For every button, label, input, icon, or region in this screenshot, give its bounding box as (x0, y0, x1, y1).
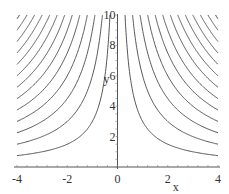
contour-line-right-12 (148, 15, 218, 121)
x-axis-label: x (173, 180, 179, 194)
contour-line-left-12 (17, 15, 87, 121)
y-axis-label: y (104, 72, 110, 86)
x-tick-label: -4 (12, 172, 22, 186)
contour-line-left-21 (17, 15, 65, 87)
y-tick-label: 2 (110, 130, 116, 144)
x-tick-label: 0 (115, 172, 121, 186)
contour-line-left-6 (17, 15, 102, 144)
axis-ticks: -4-2024246810 (12, 8, 221, 186)
x-tick-label: 4 (215, 172, 221, 186)
contour-line-right-6 (133, 15, 218, 144)
y-tick-label: 8 (110, 38, 116, 52)
x-tick-label: -2 (62, 172, 72, 186)
y-tick-label: 4 (110, 99, 116, 113)
contour-line-left-39 (17, 15, 20, 19)
contour-line-right-39 (216, 15, 219, 19)
contour-line-right-3 (125, 15, 218, 156)
contour-line-left-3 (17, 15, 110, 156)
x-tick-label: 2 (165, 172, 171, 186)
y-tick-label: 6 (110, 69, 116, 83)
contour-line-left-33 (17, 15, 35, 42)
contour-line-left-30 (17, 15, 42, 53)
contour-line-right-30 (193, 15, 218, 53)
contour-line-right-33 (200, 15, 218, 42)
contour-chart: -4-2024246810 x y (0, 0, 229, 194)
y-tick-label: 10 (104, 8, 116, 22)
contour-line-right-21 (170, 15, 218, 87)
